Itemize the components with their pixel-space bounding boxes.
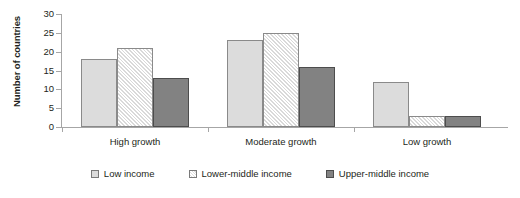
y-tick-mark	[56, 108, 61, 109]
x-tick-mark	[354, 128, 355, 132]
bar-moderate-growth-upper-middle-income	[299, 67, 335, 127]
x-tick-mark	[208, 128, 209, 132]
y-tick-mark	[56, 127, 61, 128]
bar-high-growth-upper-middle-income	[153, 78, 189, 127]
bar-high-growth-low-income	[81, 59, 117, 127]
y-tick-label: 10	[34, 84, 54, 94]
y-tick-label: 30	[34, 9, 54, 19]
x-axis-label-moderate-growth: Moderate growth	[245, 136, 316, 147]
bar-moderate-growth-lower-middle-income	[263, 33, 299, 127]
bar-high-growth-lower-middle-income	[117, 48, 153, 127]
legend-swatch-icon-upper-middle-income	[326, 170, 334, 178]
bar-low-growth-upper-middle-income	[445, 116, 481, 127]
legend-label: Upper-middle income	[339, 168, 429, 179]
bar-chart: Number of countries 051015202530 High gr…	[0, 0, 520, 198]
x-axis-label-low-growth: Low growth	[403, 136, 452, 147]
legend-swatch-icon-low-income	[91, 170, 99, 178]
legend-item-low-income: Low income	[91, 168, 155, 179]
legend-label: Lower-middle income	[202, 168, 292, 179]
y-tick-label: 25	[34, 28, 54, 38]
legend-swatch-icon-lower-middle-income	[189, 170, 197, 178]
x-tick-mark	[62, 128, 63, 132]
y-tick-mark	[56, 89, 61, 90]
y-tick-label: 15	[34, 66, 54, 76]
y-tick-label: 5	[34, 103, 54, 113]
plot-area	[62, 14, 500, 127]
bar-low-growth-low-income	[373, 82, 409, 127]
x-axis-label-high-growth: High growth	[110, 136, 161, 147]
bar-moderate-growth-low-income	[227, 40, 263, 127]
legend-item-lower-middle-income: Lower-middle income	[189, 168, 292, 179]
y-tick-label: 0	[34, 122, 54, 132]
bar-low-growth-lower-middle-income	[409, 116, 445, 127]
legend-label: Low income	[104, 168, 155, 179]
legend-item-upper-middle-income: Upper-middle income	[326, 168, 429, 179]
y-axis-title: Number of countries	[11, 2, 22, 122]
y-tick-mark	[56, 14, 61, 15]
chart-legend: Low incomeLower-middle incomeUpper-middl…	[0, 168, 520, 179]
x-axis-line	[56, 127, 508, 128]
y-tick-mark	[56, 33, 61, 34]
y-tick-label: 20	[34, 47, 54, 57]
y-tick-mark	[56, 52, 61, 53]
y-tick-mark	[56, 71, 61, 72]
